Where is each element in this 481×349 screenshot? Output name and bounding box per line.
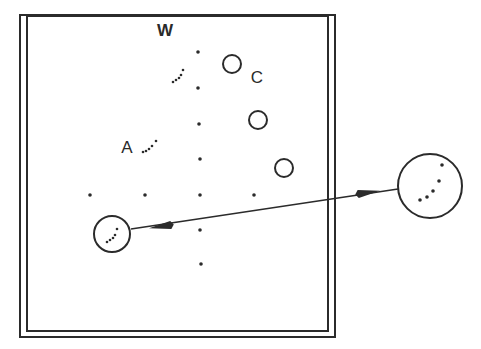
- grid-dot: [196, 50, 200, 54]
- arc-dot: [182, 69, 185, 72]
- double-arrow-connector: [131, 189, 398, 229]
- grid-dot: [199, 262, 203, 266]
- small-circle-dot: [112, 237, 115, 240]
- hollow-circle-marker: [249, 111, 267, 129]
- small-circle-dot: [116, 228, 119, 231]
- grid-dot: [197, 122, 201, 126]
- grid-dot: [252, 193, 256, 197]
- region-labels: W A C: [121, 21, 263, 157]
- arc-dot: [145, 150, 148, 153]
- small-circle-dot: [106, 241, 109, 244]
- arc-dot: [178, 77, 181, 80]
- grid-dot: [198, 157, 202, 161]
- arc-dot: [180, 74, 183, 77]
- small-circle-dot: [114, 234, 117, 237]
- grid-dot: [198, 228, 202, 232]
- magnified-circle-dot: [431, 189, 435, 193]
- arc-dot: [155, 140, 158, 143]
- hollow-circle-marker: [223, 55, 241, 73]
- arc-dot: [175, 79, 178, 82]
- field-diagram: W A C: [0, 0, 481, 349]
- grid-dot: [198, 193, 202, 197]
- dot-arc-a-arc: [142, 140, 158, 154]
- small-inset-circle: [94, 216, 130, 252]
- label-w: W: [157, 21, 174, 40]
- magnified-circle-dot: [418, 198, 422, 202]
- arrowhead-right-icon: [355, 190, 380, 198]
- arc-dot: [142, 151, 145, 154]
- magnified-circle-dot: [425, 195, 429, 199]
- dot-arc-clusters: [142, 69, 185, 154]
- label-a: A: [121, 138, 133, 157]
- arc-dot: [148, 148, 151, 151]
- grid-dot: [88, 193, 92, 197]
- hollow-circle-marker: [275, 159, 293, 177]
- magnified-circle-dot: [440, 163, 444, 167]
- magnified-circle-outline: [398, 154, 462, 218]
- small-circle-outline: [94, 216, 130, 252]
- dot-arc-w-arc: [172, 69, 185, 84]
- magnified-inset-circle: [398, 154, 462, 218]
- grid-dot: [143, 193, 147, 197]
- arc-dot: [172, 81, 175, 84]
- magnified-circle-dot: [437, 179, 441, 183]
- arc-dot: [151, 145, 154, 148]
- small-circle-dot: [109, 239, 112, 242]
- label-c: C: [251, 68, 263, 87]
- grid-dot: [196, 86, 200, 90]
- inner-border: [27, 16, 328, 331]
